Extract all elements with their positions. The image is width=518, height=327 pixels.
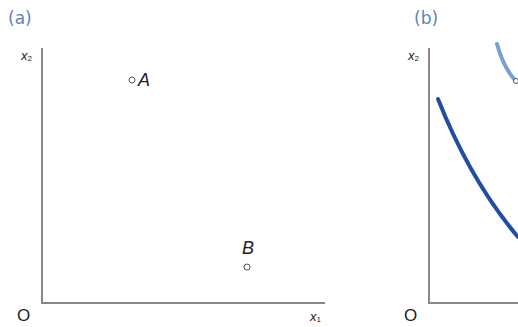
point-b-label: B: [242, 238, 254, 259]
panel-a-origin-label: O: [17, 306, 30, 326]
point-a-label: A: [138, 70, 150, 91]
point-marker-b: [514, 79, 518, 84]
panel-a-y-axis-label: x2: [21, 48, 32, 63]
point-b-marker: [244, 264, 250, 270]
panel-a-x-axis-label: x1: [310, 309, 321, 324]
indifference-curve-lower: [438, 99, 518, 237]
panel-b-origin-label: O: [404, 306, 417, 326]
point-a-marker: [129, 77, 135, 83]
panel-b-label: (b): [414, 8, 438, 28]
diagram-canvas: [0, 0, 518, 327]
panel-a-label: (a): [8, 8, 32, 28]
panel-b-y-axis-label: x2: [408, 48, 419, 63]
indifference-curve-upper: [497, 44, 514, 79]
